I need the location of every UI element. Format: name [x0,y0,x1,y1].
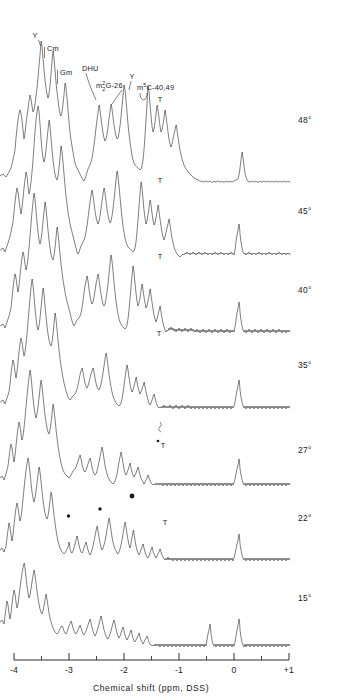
temperature-label-35: 35° [298,360,312,370]
peak-label-t-40: T [158,252,163,261]
peak-leader-m5c-brace [140,93,147,100]
peak-label-t-27: T [161,441,166,450]
peak-marker-squiggle [159,422,162,432]
x-axis: -4 -3 -2 -1 0 +1 Chemical shift (ppm, DS… [10,653,294,693]
peak-label-cm: Cm [47,44,59,53]
peak-label-dhu: DHU [82,64,99,73]
temperature-labels: 48° 45° 40° 35° 27° 22° 15° [298,115,312,603]
temperature-label-48: 48° [298,115,312,125]
spectrum-trace-40 [0,193,290,333]
temperature-label-15: 15° [298,593,312,603]
peak-label-y1: Y [32,31,37,40]
spectrum-trace-48 [0,41,290,183]
temperature-label-22: 22° [298,513,312,523]
temperature-label-27: 27° [298,445,312,455]
peak-assignment-labels: Y Cm Gm DHU m22G-26 Y m5C-40,49 T [32,31,174,104]
axis-tick-label-0: 0 [231,665,236,675]
axis-tick-label-m3: -3 [65,665,73,675]
peak-leader-dhu [86,73,96,100]
peak-label-t-35: T [157,329,162,338]
temperature-label-40: 40° [298,285,312,295]
peak-marker-dot [67,514,70,517]
temperature-label-45: 45° [298,206,312,216]
peak-label-gm: Gm [60,68,72,77]
peak-leader-m22g26 [112,90,122,104]
peak-marker-dot [130,494,135,499]
axis-tick-label-m1: -1 [175,665,183,675]
peak-leader-y2 [129,81,131,90]
peak-leader-y1 [39,40,41,46]
peak-label-t-22: T [163,518,168,527]
axis-title: Chemical shift (ppm, DSS) [93,683,209,693]
m5c-rest: C-40,49 [147,83,175,92]
m22g26-rest: G-26 [105,81,122,90]
peak-marker-dot [98,507,101,510]
peak-label-m5c: m5C-40,49 [137,82,174,92]
peak-label-m22g26: m22G-26 [96,80,123,91]
axis-tick-label-p1: +1 [284,665,294,675]
spectrum-trace-35 [0,279,290,409]
spectrum-trace-45 [0,106,290,257]
peak-marker-dot-27 [157,440,160,443]
axis-tick-label-m2: -2 [120,665,128,675]
spectrum-trace-15 [0,563,290,647]
axis-tick-label-m4: -4 [10,665,18,675]
t-peak-labels-lower: T T T T T [157,176,168,527]
peak-label-y2: Y [129,72,134,81]
spectrum-trace-22 [0,458,290,561]
peak-label-t-45: T [158,176,163,185]
nmr-stacked-spectra-figure: Y Cm Gm DHU m22G-26 Y m5C-40,49 T T T T … [0,0,347,698]
peak-label-t-48: T [158,95,163,104]
